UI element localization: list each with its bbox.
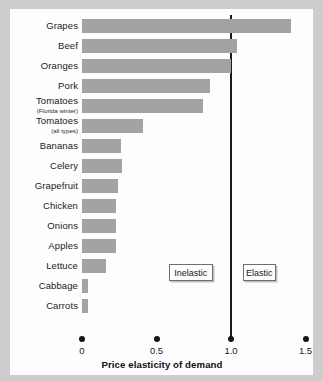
bar-row: Pork [10, 79, 313, 93]
bar [82, 39, 237, 53]
bar-category-name: Tomatoes [36, 115, 78, 126]
bar-row: Grapes [10, 19, 313, 33]
bar-category-label: Oranges [0, 61, 78, 72]
bar-category-sublabel: (Florida winter) [0, 107, 78, 114]
bar-category-label: Celery [0, 161, 78, 172]
chart-screenshot: GrapesBeefOrangesPorkTomatoes(Florida wi… [0, 0, 323, 381]
bar-category-name: Lettuce [46, 260, 78, 271]
bar [82, 79, 210, 93]
bar-category-name: Grapefruit [35, 180, 78, 191]
bar-category-label: Cabbage [0, 281, 78, 292]
bar-category-label: Pork [0, 81, 78, 92]
bar-category-label: Carrots [0, 301, 78, 312]
bar-category-label: Onions [0, 221, 78, 232]
x-tick-label: 0.5 [150, 345, 163, 356]
bar-category-label: Lettuce [0, 261, 78, 272]
bar [82, 179, 118, 193]
bar [82, 199, 116, 213]
bar-row: Bananas [10, 139, 313, 153]
bar-category-label: Grapefruit [0, 181, 78, 192]
bar [82, 119, 143, 133]
x-tick-label: 1.5 [299, 345, 312, 356]
bar-row: Onions [10, 219, 313, 233]
elastic-zone-text: Elastic [246, 268, 273, 278]
bar [82, 279, 88, 293]
bar-row: Cabbage [10, 279, 313, 293]
bar-category-name: Chicken [43, 200, 78, 211]
elastic-zone-label: Elastic [243, 264, 276, 281]
bar [82, 239, 116, 253]
bar-category-name: Beef [58, 40, 78, 51]
x-tick-marker [303, 336, 309, 342]
bar-row: Grapefruit [10, 179, 313, 193]
x-axis-title: Price elasticity of demand [82, 359, 242, 370]
bar-category-name: Bananas [40, 140, 78, 151]
bar-category-label: Beef [0, 41, 78, 52]
bar-category-name: Oranges [41, 60, 78, 71]
bar-category-name: Celery [50, 160, 78, 171]
bar-row: Tomatoes(Florida winter) [10, 99, 313, 113]
bar-category-label: Grapes [0, 21, 78, 32]
bar-category-name: Onions [47, 220, 78, 231]
bar-category-name: Tomatoes [36, 95, 78, 106]
bar-row: Carrots [10, 299, 313, 313]
bar-category-sublabel: (all types) [0, 127, 78, 134]
bar [82, 139, 121, 153]
bar-category-label: Tomatoes(all types) [0, 116, 78, 133]
bar-category-name: Cabbage [39, 280, 78, 291]
bar-category-name: Apples [48, 240, 78, 251]
x-tick-marker [228, 336, 234, 342]
bar-row: Oranges [10, 59, 313, 73]
x-tick-label: 0 [79, 345, 84, 356]
bar [82, 219, 116, 233]
bar [82, 59, 231, 73]
bar-row: Celery [10, 159, 313, 173]
bar-row: Chicken [10, 199, 313, 213]
x-tick-marker [154, 336, 160, 342]
bar [82, 99, 203, 113]
bar-row: Beef [10, 39, 313, 53]
bar-category-label: Bananas [0, 141, 78, 152]
bar-category-label: Chicken [0, 201, 78, 212]
bar-category-name: Carrots [46, 300, 78, 311]
bar-category-label: Apples [0, 241, 78, 252]
x-tick-marker [79, 336, 85, 342]
bar-category-name: Pork [58, 80, 78, 91]
bar-category-name: Grapes [46, 20, 78, 31]
bar [82, 159, 122, 173]
bar [82, 19, 291, 33]
bar [82, 299, 88, 313]
chart-panel: GrapesBeefOrangesPorkTomatoes(Florida wi… [10, 9, 313, 375]
bar-row: Tomatoes(all types) [10, 119, 313, 133]
bar-category-label: Tomatoes(Florida winter) [0, 96, 78, 114]
bar-row: Apples [10, 239, 313, 253]
inelastic-zone-label: Inelastic [169, 264, 213, 281]
bar [82, 259, 106, 273]
inelastic-zone-text: Inelastic [174, 268, 207, 278]
x-tick-label: 1.0 [224, 345, 237, 356]
